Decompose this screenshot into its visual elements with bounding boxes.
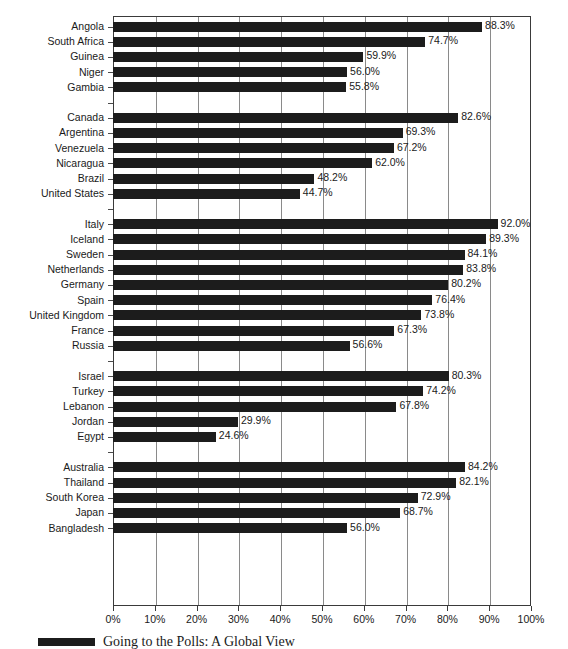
x-tick-mark (531, 606, 532, 611)
x-tick-label: 60% (353, 613, 374, 625)
legend-swatch-icon (38, 638, 95, 646)
bar-row: 84.1% (113, 247, 531, 262)
bar (113, 250, 465, 260)
bar-row: 82.1% (113, 475, 531, 490)
bar (113, 386, 423, 396)
bar-value-label: 76.4% (432, 292, 465, 307)
bar-value-label: 89.3% (486, 231, 519, 246)
bar (113, 158, 372, 168)
bar-row: 67.3% (113, 323, 531, 338)
bar-row: 56.0% (113, 521, 531, 536)
bar-value-label: 83.8% (463, 261, 496, 276)
bar-value-label: 44.7% (300, 185, 333, 200)
x-tick-mark (489, 606, 490, 611)
category-label: United States (41, 186, 104, 201)
bar-value-label: 24.6% (216, 428, 249, 443)
bar (113, 493, 418, 503)
bar-row: 76.4% (113, 293, 531, 308)
x-tick-label: 80% (437, 613, 458, 625)
bar (113, 128, 403, 138)
bar-row: 74.7% (113, 34, 531, 49)
bar-value-label: 84.1% (465, 246, 498, 261)
bar-row: 80.2% (113, 277, 531, 292)
x-tick-mark (113, 606, 114, 611)
category-label: South Korea (46, 490, 104, 505)
bar (113, 326, 394, 336)
legend: Going to the Polls: A Global View (38, 634, 295, 649)
bar (113, 143, 394, 153)
bar (113, 189, 300, 199)
bar-value-label: 68.7% (400, 504, 433, 519)
bar-value-label: 67.2% (394, 140, 427, 155)
bar-row: 59.9% (113, 49, 531, 64)
category-label: Thailand (64, 475, 104, 490)
bar-value-label: 88.3% (482, 18, 515, 33)
bar (113, 67, 347, 77)
bar-value-label: 48.2% (314, 170, 347, 185)
x-tick-label: 50% (311, 613, 332, 625)
bar (113, 280, 448, 290)
x-tick-mark (155, 606, 156, 611)
category-label: Argentina (59, 125, 104, 140)
bar-row: 69.3% (113, 125, 531, 140)
category-label: Jordan (72, 414, 104, 429)
bar (113, 82, 346, 92)
category-label: Spain (77, 293, 104, 308)
bar-value-label: 56.0% (347, 520, 380, 535)
bar-row: 80.3% (113, 369, 531, 384)
bar-row: 74.2% (113, 384, 531, 399)
bar (113, 113, 458, 123)
x-tick-label: 10% (144, 613, 165, 625)
bar-value-label: 56.0% (347, 64, 380, 79)
bar-value-label: 29.9% (238, 413, 271, 428)
bar (113, 22, 482, 32)
bar (113, 310, 421, 320)
x-tick-label: 20% (186, 613, 207, 625)
bar-value-label: 59.9% (363, 48, 396, 63)
category-label: Bangladesh (49, 521, 104, 536)
bar-value-label: 67.3% (394, 322, 427, 337)
bar-row: 48.2% (113, 171, 531, 186)
bar-row: 44.7% (113, 186, 531, 201)
category-label: Niger (79, 65, 104, 80)
category-label: Italy (85, 217, 104, 232)
bar-value-label: 74.2% (423, 383, 456, 398)
bar-chart: AngolaSouth AfricaGuineaNigerGambiaCanad… (0, 0, 568, 649)
category-label: Australia (63, 460, 104, 475)
category-label: Angola (71, 19, 104, 34)
bar (113, 234, 486, 244)
category-label: Nicaragua (56, 156, 104, 171)
category-label: Canada (67, 110, 104, 125)
bar-row: 73.8% (113, 308, 531, 323)
category-axis: AngolaSouth AfricaGuineaNigerGambiaCanad… (0, 16, 113, 606)
bar-row: 62.0% (113, 156, 531, 171)
bar-row: 29.9% (113, 414, 531, 429)
bar (113, 523, 347, 533)
bar-row: 84.2% (113, 460, 531, 475)
x-tick-label: 90% (479, 613, 500, 625)
bar (113, 508, 400, 518)
bars-layer: 88.3%74.7%59.9%56.0%55.8%82.6%69.3%67.2%… (113, 16, 531, 606)
category-label: France (71, 323, 104, 338)
category-label: Gambia (67, 80, 104, 95)
category-label: Turkey (72, 384, 104, 399)
bar-value-label: 82.6% (458, 109, 491, 124)
category-label: Iceland (70, 232, 104, 247)
x-tick-mark (280, 606, 281, 611)
category-label: Brazil (78, 171, 104, 186)
category-label: Japan (75, 505, 104, 520)
category-label: Venezuela (55, 141, 104, 156)
bar (113, 295, 432, 305)
bar-row: 92.0% (113, 217, 531, 232)
bar-row: 83.8% (113, 262, 531, 277)
category-label: Lebanon (63, 399, 104, 414)
x-tick-label: 70% (395, 613, 416, 625)
x-tick-mark (447, 606, 448, 611)
bar-value-label: 73.8% (421, 307, 454, 322)
category-label: Israel (78, 369, 104, 384)
bar-value-label: 82.1% (456, 474, 489, 489)
bar (113, 402, 396, 412)
bar-row: 72.9% (113, 490, 531, 505)
bar-row: 68.7% (113, 505, 531, 520)
bar-value-label: 62.0% (372, 155, 405, 170)
